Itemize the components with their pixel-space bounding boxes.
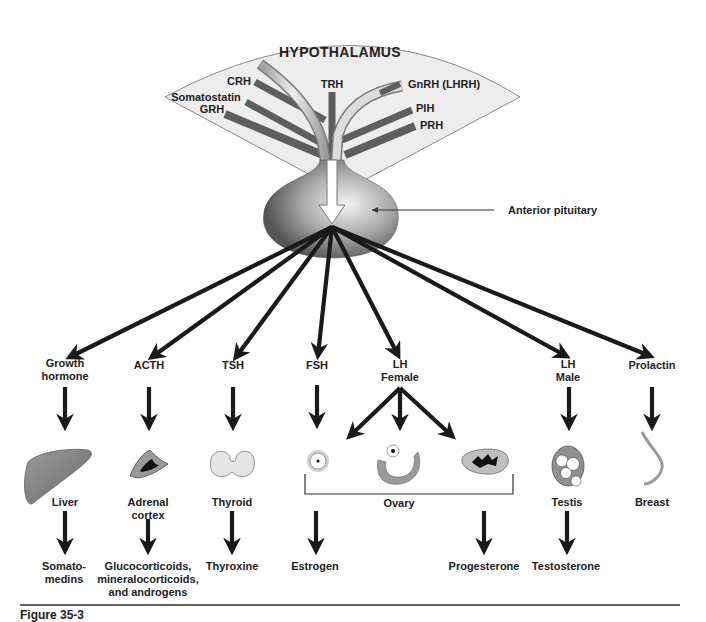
label-anterior-pituitary: Anterior pituitary (508, 204, 597, 217)
hormone-acth: ACTH (134, 359, 165, 372)
product-progesterone: Progesterone (449, 560, 520, 573)
product-thyroxine: Thyroxine (206, 560, 259, 573)
ovulated-follicle-icon (377, 445, 419, 484)
organ-testis: Testis (552, 496, 583, 509)
hormone-lh-male: LHMale (556, 358, 580, 384)
product-somatomedins: Somato-medins (42, 560, 86, 586)
label-prh: PRH (420, 119, 443, 132)
hormone-lh-female: LHFemale (381, 358, 419, 384)
organ-thyroid: Thyroid (212, 496, 252, 509)
figure-caption: Figure 35-3 (20, 608, 84, 622)
hypothalamus-title: HYPOTHALAMUS (279, 44, 401, 60)
hormone-growth-hormone: Growthhormone (41, 357, 88, 383)
organ-adrenal-cortex: Adrenalcortex (128, 496, 169, 522)
product-testosterone: Testosterone (532, 560, 600, 573)
ovarian-follicle-icon (307, 450, 329, 472)
label-pih: PIH (416, 102, 434, 115)
hormone-fsh: FSH (306, 359, 328, 372)
label-trh: TRH (321, 78, 344, 91)
organ-breast: Breast (635, 496, 669, 509)
thyroid-icon (210, 451, 254, 476)
hormone-prolactin: Prolactin (628, 359, 675, 372)
label-crh: CRH (227, 75, 251, 88)
corpus-luteum-icon (462, 449, 508, 474)
organ-ovary: Ovary (383, 497, 414, 510)
hormone-tsh: TSH (222, 359, 244, 372)
organ-liver: Liver (52, 496, 78, 509)
breast-icon (642, 432, 662, 484)
testis-icon (552, 446, 584, 486)
product-corticoids: Glucocorticoids,mineralocorticoids,and a… (97, 560, 198, 599)
hormone-to-organ-arrows (65, 385, 652, 436)
product-estrogen: Estrogen (291, 560, 339, 573)
adrenal-cortex-icon (130, 450, 168, 478)
label-grh: GRH (200, 103, 224, 116)
label-gnrh: GnRH (LHRH) (408, 78, 480, 91)
